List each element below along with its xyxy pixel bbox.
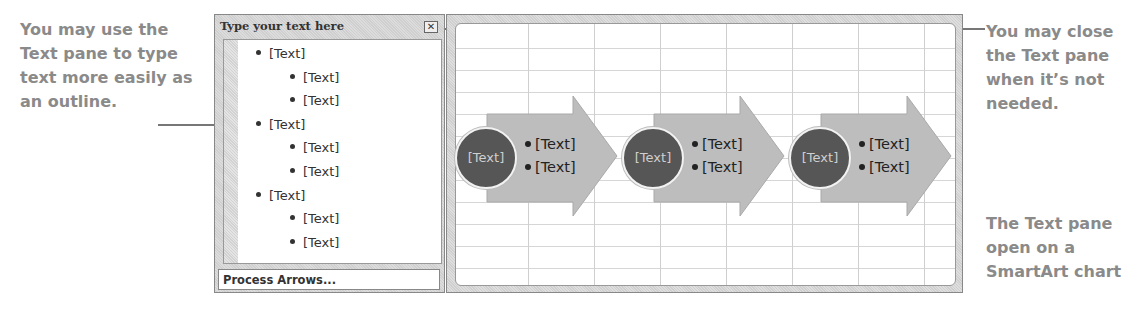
caption-smartart-text-pane: The Text pane open on a SmartArt chart: [986, 212, 1146, 284]
process-step[interactable]: [Text][Text][Text]: [789, 96, 959, 218]
text-pane-title: Type your text here: [220, 19, 344, 33]
outline-item[interactable]: [Text]: [224, 138, 441, 162]
outline-item-text[interactable]: [Text]: [269, 117, 305, 132]
step-bullet-list: [Text][Text]: [859, 133, 910, 179]
bullet-icon: [290, 144, 295, 149]
bullet-icon: [256, 192, 261, 197]
bullet-icon: [290, 97, 295, 102]
outline-item[interactable]: [Text]: [224, 233, 441, 257]
step-bullet-text[interactable]: [Text]: [702, 159, 743, 175]
outline-item-text[interactable]: [Text]: [303, 211, 339, 226]
outline-item[interactable]: [Text]: [224, 44, 441, 68]
outline-item-text[interactable]: [Text]: [269, 188, 305, 203]
step-bullet-item[interactable]: [Text]: [859, 133, 910, 156]
text-pane-footer[interactable]: Process Arrows...: [218, 269, 440, 290]
step-circle[interactable]: [Text]: [455, 127, 517, 189]
outline-item-text[interactable]: [Text]: [303, 93, 339, 108]
bullet-icon: [290, 168, 295, 173]
callout-close-text-pane: You may close the Text pane when it’s no…: [986, 20, 1146, 116]
outline-item-text[interactable]: [Text]: [303, 70, 339, 85]
bullet-icon: [525, 164, 531, 170]
text-pane-header: Type your text here ✕: [218, 18, 441, 38]
outline-item-text[interactable]: [Text]: [303, 164, 339, 179]
bullet-icon: [525, 141, 531, 147]
outline-item[interactable]: [Text]: [224, 68, 441, 92]
bullet-icon: [692, 164, 698, 170]
step-bullet-text[interactable]: [Text]: [535, 159, 576, 175]
step-bullet-list: [Text][Text]: [525, 133, 576, 179]
bullet-icon: [859, 164, 865, 170]
close-icon[interactable]: ✕: [424, 21, 438, 33]
step-bullet-text[interactable]: [Text]: [869, 159, 910, 175]
step-bullet-list: [Text][Text]: [692, 133, 743, 179]
step-circle[interactable]: [Text]: [789, 127, 851, 189]
bullet-icon: [692, 141, 698, 147]
outline-item[interactable]: [Text]: [224, 209, 441, 233]
step-circle[interactable]: [Text]: [622, 127, 684, 189]
bullet-icon: [290, 215, 295, 220]
bullet-icon: [290, 239, 295, 244]
step-bullet-item[interactable]: [Text]: [525, 156, 576, 179]
step-bullet-item[interactable]: [Text]: [692, 156, 743, 179]
text-pane-outline[interactable]: [Text][Text][Text][Text][Text][Text][Tex…: [223, 39, 442, 264]
step-bullet-text[interactable]: [Text]: [702, 136, 743, 152]
outline-item-text[interactable]: [Text]: [303, 235, 339, 250]
step-bullet-item[interactable]: [Text]: [525, 133, 576, 156]
step-bullet-text[interactable]: [Text]: [869, 136, 910, 152]
process-step[interactable]: [Text][Text][Text]: [455, 96, 625, 218]
step-bullet-item[interactable]: [Text]: [859, 156, 910, 179]
outline-item-text[interactable]: [Text]: [303, 140, 339, 155]
bullet-icon: [859, 141, 865, 147]
layout-name-link[interactable]: Process Arrows...: [223, 273, 336, 287]
outline-item[interactable]: [Text]: [224, 162, 441, 186]
process-step[interactable]: [Text][Text][Text]: [622, 96, 792, 218]
outline-item[interactable]: [Text]: [224, 186, 441, 210]
bullet-icon: [256, 121, 261, 126]
step-bullet-text[interactable]: [Text]: [535, 136, 576, 152]
text-pane: Type your text here ✕ [Text][Text][Text]…: [214, 14, 445, 293]
outline-item[interactable]: [Text]: [224, 115, 441, 139]
outline-item[interactable]: [Text]: [224, 91, 441, 115]
bullet-icon: [290, 74, 295, 79]
outline-list: [Text][Text][Text][Text][Text][Text][Tex…: [224, 44, 441, 256]
step-bullet-item[interactable]: [Text]: [692, 133, 743, 156]
bullet-icon: [256, 50, 261, 55]
outline-item-text[interactable]: [Text]: [269, 46, 305, 61]
callout-text-pane-outline: You may use the Text pane to type text m…: [20, 18, 200, 114]
